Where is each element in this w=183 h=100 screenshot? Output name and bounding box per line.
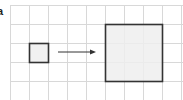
- large-square: [106, 25, 163, 82]
- small-square: [30, 44, 49, 63]
- arrow-head-icon: [90, 50, 96, 55]
- scaling-diagram: [0, 0, 183, 100]
- arrow: [58, 50, 96, 55]
